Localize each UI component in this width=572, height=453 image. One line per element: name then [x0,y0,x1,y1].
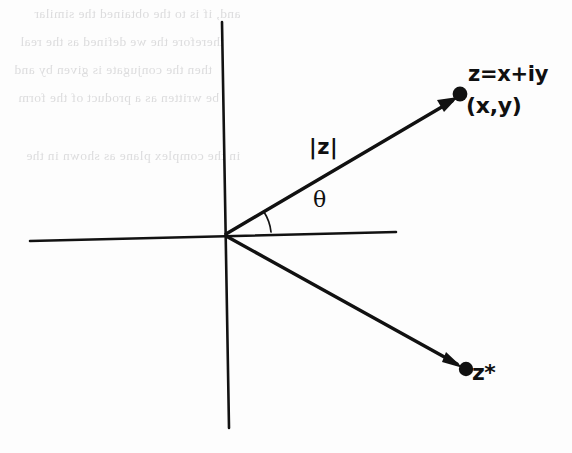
theta-arc [264,212,271,232]
imaginary-axis-line [222,22,229,428]
z-conjugate-vector-line [226,236,457,364]
label-z-conjugate: z* [472,362,495,384]
label-angle-theta: θ [313,189,326,211]
label-z-coordinates: (x,y) [466,95,522,117]
label-z-expression: z=x+iy [468,64,548,85]
z-vector-line [226,101,452,234]
label-modulus: |z| [309,137,338,158]
real-axis-line [30,232,396,241]
argand-diagram-figure: and, if is to the obtained the similar t… [0,0,572,453]
